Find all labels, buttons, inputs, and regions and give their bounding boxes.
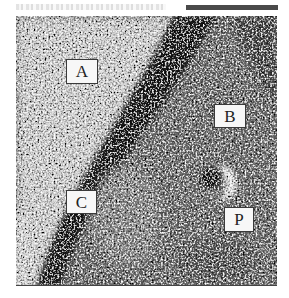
- micrograph-texture: [16, 16, 277, 286]
- label-a-text: A: [76, 63, 88, 80]
- label-a: A: [66, 59, 98, 84]
- label-c-text: C: [76, 194, 87, 211]
- micrograph-image: A B C P: [16, 16, 277, 286]
- label-p: P: [224, 207, 254, 232]
- label-b: B: [214, 104, 246, 128]
- cropped-caption-strip: [16, 3, 278, 13]
- cropped-image-edge: [186, 5, 278, 10]
- label-p-text: P: [234, 211, 243, 228]
- figure-bottom-border: [16, 285, 277, 286]
- label-b-text: B: [224, 108, 235, 125]
- illegible-caption-text: [16, 4, 166, 10]
- label-c: C: [66, 190, 97, 214]
